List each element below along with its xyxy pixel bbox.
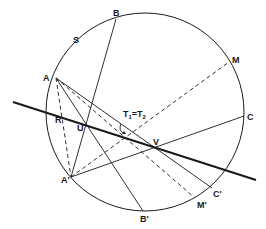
- line-A-Cprime: [56, 78, 212, 188]
- label-A-prime: A': [61, 175, 70, 185]
- label-C: C: [247, 112, 254, 122]
- label-U: U: [77, 123, 84, 133]
- label-R: R: [55, 115, 62, 125]
- geometry-diagram: A B S M C C' M' B' A' R U V T1=T2: [0, 0, 266, 229]
- label-V: V: [153, 137, 159, 147]
- dashed-A-Aprime: [56, 78, 71, 177]
- dashed-Aprime-M: [71, 62, 229, 177]
- line-A-Bprime: [56, 78, 143, 211]
- label-M: M: [232, 55, 240, 65]
- label-B: B: [113, 8, 120, 18]
- label-S: S: [73, 35, 79, 45]
- label-A: A: [43, 73, 50, 83]
- dashed-A-Mprime: [56, 78, 195, 198]
- label-C-prime: C': [213, 189, 222, 199]
- label-T1-eq-T2: T1=T2: [123, 109, 147, 120]
- label-M-prime: M': [197, 200, 207, 210]
- label-B-prime: B': [140, 214, 149, 224]
